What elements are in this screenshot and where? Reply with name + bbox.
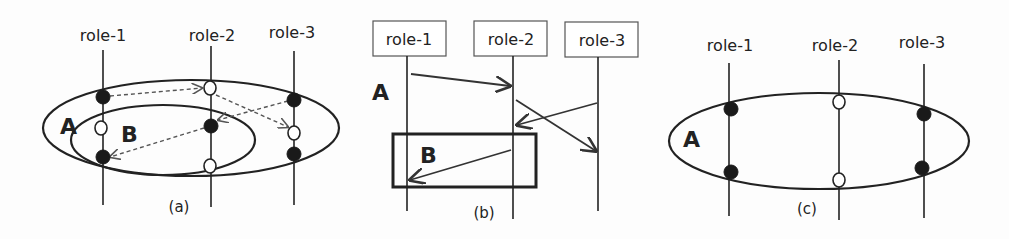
caption-c: (c) bbox=[797, 200, 817, 218]
role-2-label: role-2 bbox=[812, 36, 858, 55]
role-3-label: role-3 bbox=[269, 23, 315, 42]
dashed-arrow bbox=[110, 88, 202, 96]
filled-node bbox=[724, 165, 738, 179]
role-1-label: role-1 bbox=[386, 30, 432, 49]
message-arrow bbox=[517, 103, 597, 125]
hollow-node bbox=[833, 173, 845, 187]
diagram-canvas: role-1 role-2 role-3 A B (a) role-1 role… bbox=[0, 0, 1009, 239]
filled-node bbox=[724, 102, 738, 116]
role-1-label: role-1 bbox=[707, 36, 753, 55]
hollow-node bbox=[833, 95, 845, 109]
hollow-node bbox=[204, 81, 216, 95]
hollow-node bbox=[204, 159, 216, 173]
role-3-label: role-3 bbox=[579, 31, 625, 50]
hollow-node bbox=[288, 126, 300, 140]
message-arrow bbox=[516, 100, 596, 151]
role-3-label: role-3 bbox=[899, 33, 945, 52]
region-a-label: A bbox=[60, 114, 77, 139]
message-arrow bbox=[411, 74, 510, 86]
region-b-label: B bbox=[420, 143, 437, 168]
role-2-label: role-2 bbox=[488, 30, 534, 49]
panel-c: role-1 role-2 role-3 A (c) bbox=[669, 33, 969, 220]
filled-node bbox=[96, 90, 110, 104]
panel-b: role-1 role-2 role-3 A B (b) bbox=[372, 21, 638, 222]
role-1-label: role-1 bbox=[80, 26, 126, 45]
filled-node bbox=[287, 147, 301, 161]
hollow-node bbox=[95, 121, 107, 135]
caption-a: (a) bbox=[169, 198, 190, 216]
role-2-label: role-2 bbox=[189, 26, 235, 45]
region-a-label: A bbox=[683, 127, 700, 152]
filled-node bbox=[204, 119, 218, 133]
filled-node bbox=[917, 107, 931, 121]
region-b-label: B bbox=[121, 122, 138, 147]
panel-a: role-1 role-2 role-3 A B (a) bbox=[43, 23, 339, 216]
caption-b: (b) bbox=[473, 204, 494, 222]
filled-node bbox=[96, 150, 110, 164]
region-a-label: A bbox=[372, 80, 389, 105]
dashed-arrow bbox=[218, 101, 288, 120]
filled-node bbox=[287, 93, 301, 107]
filled-node bbox=[915, 161, 929, 175]
